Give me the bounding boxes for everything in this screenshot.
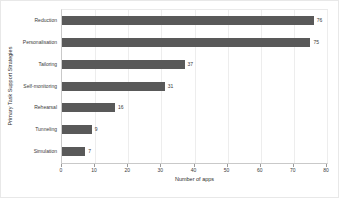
bar-value-label: 75: [313, 40, 319, 45]
x-tick-label: 80: [323, 168, 329, 173]
bar: [62, 125, 92, 134]
bar-value-label: 76: [317, 18, 323, 23]
bar-row: 31: [62, 82, 327, 91]
bar-value-label: 31: [168, 84, 174, 89]
category-label: Simulation: [34, 149, 57, 154]
bar: [62, 147, 85, 156]
bar-value-label: 7: [88, 149, 91, 154]
bar: [62, 82, 165, 91]
category-label: Tailoring: [38, 61, 57, 66]
x-tick-label: 30: [158, 168, 164, 173]
bar: [62, 60, 185, 69]
x-tick-label: 0: [60, 168, 63, 173]
bar-row: 76: [62, 16, 327, 25]
category-label: Rehearsal: [34, 105, 57, 110]
bar-value-label: 37: [188, 62, 194, 67]
bar: [62, 103, 115, 112]
bar-row: 37: [62, 60, 327, 69]
x-tick-label: 10: [91, 168, 97, 173]
plot-area: 767537311697: [61, 9, 328, 164]
category-label: Reduction: [34, 17, 57, 22]
bar-row: 75: [62, 38, 327, 47]
y-axis-title: Primary Task Support Strategies: [8, 47, 14, 126]
x-tick-label: 20: [124, 168, 130, 173]
bar-chart-figure: ReductionPersonalisationTailoringSelf-mo…: [0, 0, 339, 198]
x-tick-label: 50: [224, 168, 230, 173]
bar-row: 16: [62, 103, 327, 112]
gridline: [327, 10, 328, 163]
category-label: Tunneling: [35, 127, 57, 132]
bar-row: 7: [62, 147, 327, 156]
bar-value-label: 9: [95, 127, 98, 132]
category-label: Self-monitoring: [23, 83, 57, 88]
bar: [62, 16, 314, 25]
bar-row: 9: [62, 125, 327, 134]
category-label: Personalisation: [23, 39, 57, 44]
x-tick-label: 40: [191, 168, 197, 173]
x-tick-label: 60: [257, 168, 263, 173]
bar: [62, 38, 310, 47]
bar-value-label: 16: [118, 105, 124, 110]
x-tick-label: 70: [290, 168, 296, 173]
x-axis-title: Number of apps: [61, 177, 328, 183]
